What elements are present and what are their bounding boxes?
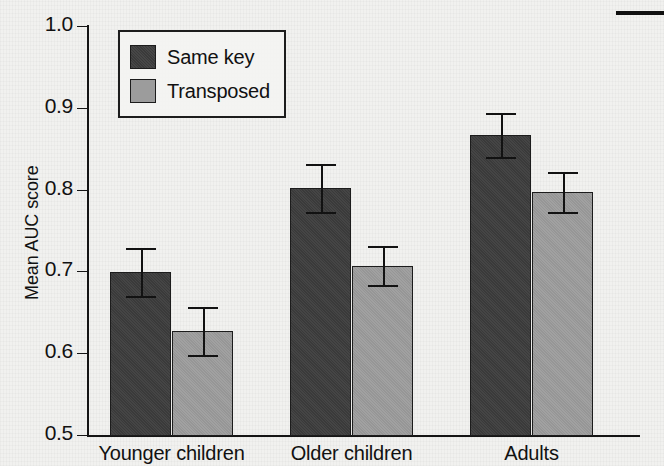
y-axis-tick-label: 1.0	[10, 12, 73, 36]
error-bar-cap	[188, 355, 218, 357]
error-bar-cap	[126, 296, 156, 298]
bar-chart-plot: Mean AUC score 0.50.60.70.80.91.0 Younge…	[0, 0, 664, 466]
error-bar-cap	[368, 246, 398, 248]
bar-transposed	[532, 192, 593, 436]
error-bar-line	[563, 172, 565, 211]
y-axis-tick-label: 0.9	[10, 94, 73, 118]
error-bar-line	[141, 248, 143, 295]
chart-legend: Same key Transposed	[118, 30, 286, 118]
error-bar-cap	[126, 248, 156, 250]
y-axis-tick-mark	[77, 26, 88, 27]
error-bar-line	[383, 246, 385, 285]
error-bar-cap	[188, 307, 218, 309]
y-axis-tick-label: 0.8	[10, 176, 73, 200]
error-bar-cap	[548, 212, 578, 214]
bar-transposed	[352, 266, 413, 436]
bar-same-key	[290, 188, 351, 436]
error-bar-cap	[306, 212, 336, 214]
error-bar-cap	[548, 172, 578, 174]
chart-page-background: Mean AUC score 0.50.60.70.80.91.0 Younge…	[0, 0, 664, 466]
error-bar-line	[203, 307, 205, 354]
error-bar-cap	[306, 164, 336, 166]
y-axis-tick-mark	[77, 353, 88, 354]
y-axis-tick-label: 0.6	[10, 339, 73, 363]
bar-same-key	[470, 135, 531, 436]
x-axis-category-label: Adults	[422, 442, 642, 465]
error-bar-line	[501, 113, 503, 157]
y-axis-tick-mark	[77, 435, 88, 436]
y-axis-tick-mark	[77, 108, 88, 109]
y-axis-tick-mark	[77, 271, 88, 272]
error-bar-line	[321, 164, 323, 211]
legend-label-same-key: Same key	[167, 46, 254, 69]
legend-label-transposed: Transposed	[167, 80, 270, 103]
legend-swatch-transposed	[130, 79, 156, 103]
legend-swatch-same-key	[130, 45, 156, 69]
y-axis-tick-label: 0.7	[10, 257, 73, 281]
y-axis-line	[87, 25, 89, 437]
error-bar-cap	[368, 285, 398, 287]
legend-item-transposed: Transposed	[130, 74, 270, 108]
error-bar-cap	[486, 113, 516, 115]
legend-item-same-key: Same key	[130, 40, 270, 74]
y-axis-tick-mark	[77, 190, 88, 191]
error-bar-cap	[486, 157, 516, 159]
